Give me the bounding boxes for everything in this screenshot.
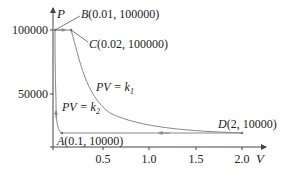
label-point-d: D(2, 10000) — [217, 117, 277, 131]
label-point-a: A(0.1, 10000) — [56, 134, 123, 148]
x-tick-0-5: 0.5 — [96, 152, 111, 166]
label-pv-k1: PV = k1 — [95, 80, 134, 96]
x-tick-1-0: 1.0 — [142, 152, 157, 166]
y-tick-50000: 50000 — [18, 87, 48, 101]
label-pv-k2: PV = k2 — [61, 100, 100, 116]
y-tick-100000: 100000 — [12, 23, 48, 37]
pv-diagram: P V 100000 50000 0.5 1.0 1.5 2.0 B(0.01,… — [0, 0, 288, 173]
axis-label-v: V — [256, 151, 266, 166]
x-tick-1-5: 1.5 — [189, 152, 204, 166]
label-point-b: B(0.01, 100000) — [81, 7, 159, 21]
point-d — [241, 132, 244, 135]
label-point-c: C(0.02, 100000) — [89, 37, 168, 51]
x-tick-2-0: 2.0 — [235, 152, 250, 166]
axis-label-p: P — [56, 6, 65, 21]
